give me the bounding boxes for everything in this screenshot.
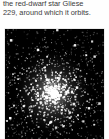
document-page-excerpt: the red-dwarf star Gliese 229, around wh…: [0, 0, 109, 139]
caption-line-1: the red-dwarf star Gliese: [3, 0, 108, 8]
starfield-graphic: [5, 29, 104, 139]
star-cluster-photo: [5, 29, 104, 139]
caption-line-2: 229, around which it orbits.: [3, 8, 108, 17]
figure-caption: the red-dwarf star Gliese 229, around wh…: [3, 0, 108, 17]
